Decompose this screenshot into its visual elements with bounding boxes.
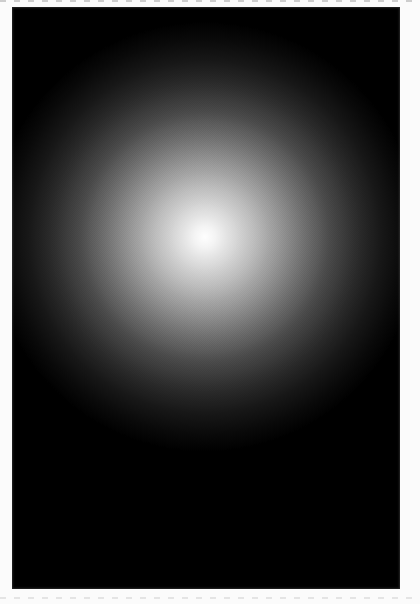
scanned-page <box>0 0 420 604</box>
photo-plate <box>12 7 400 589</box>
scan-artifact-top <box>0 0 420 2</box>
scan-artifact-bottom <box>0 597 420 599</box>
diffuse-glow <box>12 7 400 589</box>
